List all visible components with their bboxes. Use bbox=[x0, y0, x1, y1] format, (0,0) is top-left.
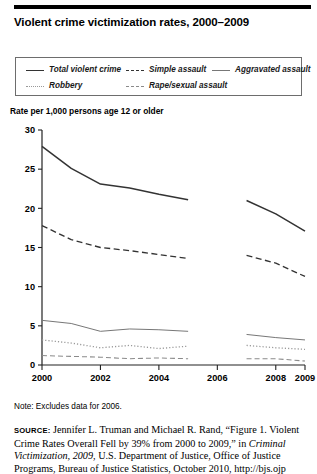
legend-label: Aggravated assault bbox=[235, 65, 311, 75]
legend-item-simple-assault: Simple assault bbox=[126, 62, 206, 78]
legend-label: Total violent crime bbox=[49, 65, 121, 75]
series-line-rape-sexual-assault bbox=[42, 356, 188, 359]
legend-swatch-solid-thick-icon bbox=[26, 70, 44, 71]
y-tick-label: 10 bbox=[25, 282, 35, 292]
series-line-robbery bbox=[42, 340, 188, 349]
y-tick-label: 5 bbox=[30, 321, 35, 331]
source-label: source: bbox=[14, 426, 50, 435]
legend-row-2: Robbery Rape/sexual assault bbox=[16, 78, 301, 94]
legend-row-1: Total violent crime Simple assault Aggra… bbox=[16, 62, 301, 78]
chart-legend: Total violent crime Simple assault Aggra… bbox=[15, 57, 302, 96]
series-line-simple-assault bbox=[247, 255, 305, 276]
legend-label: Robbery bbox=[49, 81, 82, 91]
legend-label: Simple assault bbox=[149, 65, 206, 75]
legend-label: Rape/sexual assault bbox=[149, 81, 227, 91]
legend-swatch-dotted-icon bbox=[26, 86, 44, 87]
legend-item-robbery: Robbery bbox=[26, 78, 82, 94]
y-tick-label: 15 bbox=[25, 243, 35, 253]
top-rule bbox=[14, 5, 311, 9]
legend-swatch-solid-thin-icon bbox=[212, 70, 230, 71]
y-tick-label: 0 bbox=[30, 360, 35, 370]
legend-item-rape-sexual-assault: Rape/sexual assault bbox=[126, 78, 227, 94]
x-tick-label: 2002 bbox=[90, 373, 110, 383]
legend-item-aggravated-assault: Aggravated assault bbox=[212, 62, 311, 78]
legend-swatch-dashed-icon bbox=[126, 70, 144, 71]
y-axis-caption: Rate per 1,000 persons age 12 or older bbox=[10, 106, 164, 116]
x-tick-label: 2009 bbox=[295, 373, 315, 383]
y-tick-label: 25 bbox=[25, 164, 35, 174]
source-citation: source: Jennifer L. Truman and Michael R… bbox=[14, 424, 309, 474]
series-line-rape-sexual-assault bbox=[247, 359, 305, 361]
x-tick-label: 2006 bbox=[207, 373, 227, 383]
chart-note: Note: Excludes data for 2006. bbox=[14, 402, 122, 411]
y-tick-label: 20 bbox=[25, 204, 35, 214]
series-line-aggravated-assault bbox=[42, 320, 188, 331]
legend-item-total-violent-crime: Total violent crime bbox=[26, 62, 121, 78]
series-line-total-violent-crime bbox=[247, 201, 305, 232]
chart-plot-area: 051015202530200020022004200620082009 bbox=[0, 118, 317, 393]
series-line-total-violent-crime bbox=[42, 146, 188, 199]
x-tick-label: 2000 bbox=[32, 373, 52, 383]
series-line-simple-assault bbox=[42, 226, 188, 259]
x-tick-label: 2008 bbox=[266, 373, 286, 383]
figure-title: Violent crime victimization rates, 2000–… bbox=[14, 15, 309, 29]
legend-swatch-dashdot-icon bbox=[126, 86, 144, 87]
series-line-robbery bbox=[247, 345, 305, 349]
line-chart-svg: 051015202530200020022004200620082009 bbox=[0, 118, 317, 393]
x-tick-label: 2004 bbox=[149, 373, 170, 383]
y-tick-label: 30 bbox=[25, 125, 35, 135]
series-line-aggravated-assault bbox=[247, 334, 305, 339]
